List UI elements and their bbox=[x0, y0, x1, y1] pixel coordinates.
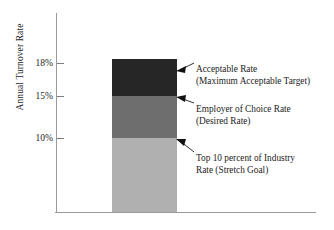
turnover-rate-chart: Annual Turnover Rate 18% 15% 10% Accepta… bbox=[0, 0, 334, 230]
callout-stretch-goal-line1: Top 10 percent of Industry bbox=[196, 153, 295, 163]
callout-acceptable-rate-line2: (Maximum Acceptable Target) bbox=[196, 76, 310, 88]
callout-employer-of-choice-line2: (Desired Rate) bbox=[196, 116, 291, 128]
callout-acceptable-rate: Acceptable Rate (Maximum Acceptable Targ… bbox=[196, 64, 310, 87]
callout-employer-of-choice: Employer of Choice Rate (Desired Rate) bbox=[196, 104, 291, 127]
callout-stretch-goal-line2: Rate (Stretch Goal) bbox=[196, 165, 295, 177]
callout-stretch-goal: Top 10 percent of Industry Rate (Stretch… bbox=[196, 153, 295, 176]
callout-employer-of-choice-line1: Employer of Choice Rate bbox=[196, 104, 291, 114]
callout-acceptable-rate-line1: Acceptable Rate bbox=[196, 64, 257, 74]
